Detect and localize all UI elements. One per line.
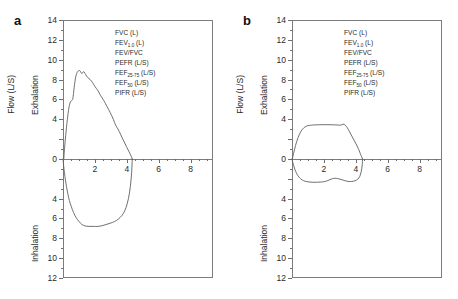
- panel-b-plot-area: 121086404681012142468 FVC (L)FEV1.0 (L)F…: [292, 20, 442, 278]
- y-tick-label: 4: [52, 194, 57, 204]
- panel-b-exhalation-label: Exhalation: [259, 75, 269, 115]
- y-tick-label: 6: [281, 94, 286, 104]
- y-tick-label: 4: [52, 114, 57, 124]
- y-tick-label: 8: [52, 233, 57, 243]
- panel-a: a Flow (L/S) Exhalation Inhalation 12108…: [0, 0, 229, 299]
- panel-a-inspiratory-path: [63, 159, 132, 227]
- y-tick-label: 6: [281, 213, 286, 223]
- y-tick-label: 14: [48, 15, 57, 25]
- y-tick-label: 12: [277, 35, 286, 45]
- panel-b-inhalation-label: Inhalation: [259, 225, 269, 262]
- y-tick-label: 12: [48, 273, 57, 283]
- y-tick-label: 14: [277, 15, 286, 25]
- y-tick-label: 8: [281, 233, 286, 243]
- panel-b-inspiratory-path: [292, 159, 363, 182]
- panel-a-curve: [63, 20, 213, 278]
- panel-a-plot-area: 121086404681012142468 FVC (L)FEV1.0 (L)F…: [63, 20, 213, 278]
- y-tick-label: 4: [281, 114, 286, 124]
- y-tick-label: 10: [277, 55, 286, 65]
- y-tick-label: 10: [48, 253, 57, 263]
- y-tick: [59, 278, 63, 279]
- spirometry-figure: a Flow (L/S) Exhalation Inhalation 12108…: [0, 0, 458, 299]
- panel-b: b Flow (L/S) Exhalation Inhalation 12108…: [229, 0, 458, 299]
- y-tick-label: 0: [52, 154, 57, 164]
- y-tick-label: 4: [281, 194, 286, 204]
- panel-a-exhalation-label: Exhalation: [30, 75, 40, 115]
- panel-b-letter: b: [243, 14, 251, 27]
- y-tick-label: 6: [52, 94, 57, 104]
- panel-a-letter: a: [14, 14, 21, 27]
- y-tick-label: 12: [277, 273, 286, 283]
- panel-a-inhalation-label: Inhalation: [30, 225, 40, 262]
- panel-a-y-axis-title-text: Flow (L/S): [6, 75, 16, 114]
- panel-b-y-axis-title-text: Flow (L/S): [235, 75, 245, 114]
- y-tick-label: 6: [52, 213, 57, 223]
- y-tick-label: 12: [48, 35, 57, 45]
- y-tick: [288, 278, 292, 279]
- panel-a-y-axis-title: Flow (L/S): [6, 40, 16, 110]
- y-tick-label: 8: [52, 75, 57, 85]
- y-tick-label: 10: [48, 55, 57, 65]
- y-tick-label: 8: [281, 75, 286, 85]
- y-tick-label: 0: [281, 154, 286, 164]
- panel-b-y-axis-title: Flow (L/S): [235, 40, 245, 110]
- y-tick-label: 10: [277, 253, 286, 263]
- panel-a-expiratory-path: [64, 70, 132, 158]
- panel-b-curve: [292, 20, 442, 278]
- panel-b-expiratory-path: [292, 124, 362, 159]
